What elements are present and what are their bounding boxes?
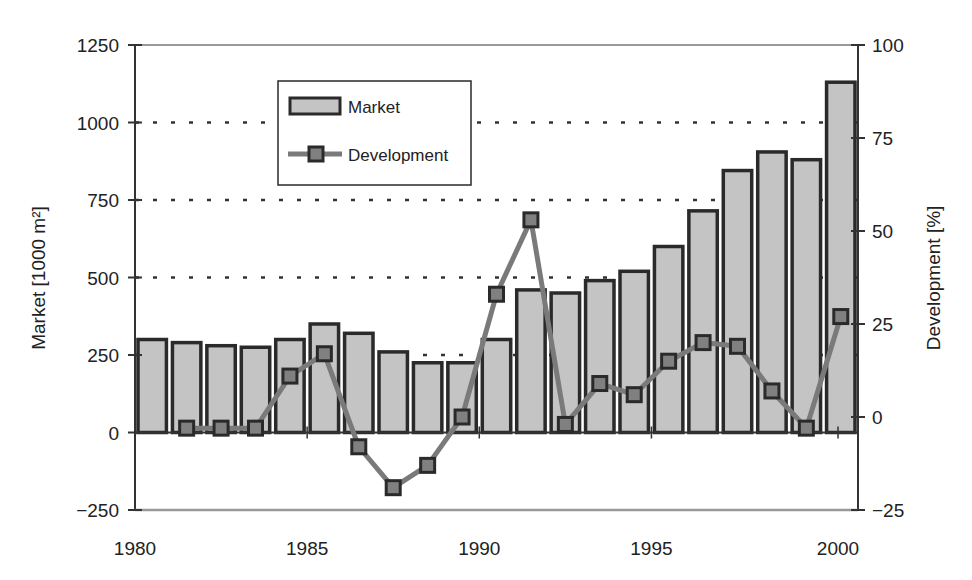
development-marker	[696, 336, 710, 350]
legend-market-label: Market	[348, 98, 400, 117]
x-tick-label: 1980	[114, 538, 156, 559]
market-bars	[138, 82, 855, 432]
bar-1997	[723, 171, 751, 433]
development-marker	[558, 417, 572, 431]
development-marker	[455, 410, 469, 424]
development-marker	[490, 287, 504, 301]
y-tick-label-left: 500	[87, 268, 119, 289]
bar-2000	[827, 82, 855, 432]
bar-1996	[689, 211, 717, 433]
y-tick-label-right: 50	[872, 221, 893, 242]
bar-1993	[586, 281, 614, 433]
y-tick-label-right: 0	[872, 407, 883, 428]
development-marker	[386, 481, 400, 495]
bar-1988	[413, 363, 441, 433]
y-tick-label-left: 0	[108, 423, 119, 444]
x-tick-label: 2000	[817, 538, 859, 559]
legend: Market Development	[278, 81, 471, 185]
combo-chart: −250025050075010001250−25025507510019801…	[0, 0, 972, 580]
y-tick-label-right: −25	[872, 500, 904, 521]
development-marker	[627, 388, 641, 402]
bar-1980	[138, 340, 166, 433]
development-marker	[765, 384, 779, 398]
development-marker	[421, 458, 435, 472]
y-tick-label-right: 100	[872, 35, 904, 56]
chart-container: −250025050075010001250−25025507510019801…	[0, 0, 972, 580]
bar-1991	[517, 290, 545, 433]
y-tick-label-left: 1000	[77, 113, 119, 134]
development-marker	[731, 339, 745, 353]
bar-1984	[276, 340, 304, 433]
development-marker	[799, 421, 813, 435]
bar-1995	[654, 247, 682, 433]
legend-development-label: Development	[348, 146, 448, 165]
y-axis-title-right: Development [%]	[923, 206, 944, 351]
legend-market-swatch	[290, 98, 340, 114]
development-marker	[662, 354, 676, 368]
bar-1987	[379, 352, 407, 433]
bar-1990	[482, 340, 510, 433]
y-tick-label-left: 1250	[77, 35, 119, 56]
development-marker	[317, 347, 331, 361]
bar-1981	[172, 343, 200, 433]
y-tick-label-right: 25	[872, 314, 893, 335]
x-tick-label: 1985	[286, 538, 328, 559]
development-marker	[352, 440, 366, 454]
development-marker	[180, 421, 194, 435]
development-marker	[214, 421, 228, 435]
y-tick-label-right: 75	[872, 128, 893, 149]
bar-1982	[207, 346, 235, 433]
bar-1994	[620, 271, 648, 432]
development-marker	[593, 377, 607, 391]
y-tick-label-left: 750	[87, 190, 119, 211]
legend-development-marker-icon	[309, 147, 323, 161]
development-marker	[524, 213, 538, 227]
development-marker	[834, 310, 848, 324]
y-tick-label-left: 250	[87, 345, 119, 366]
y-tick-label-left: −250	[76, 500, 119, 521]
x-tick-label: 1995	[630, 538, 672, 559]
development-marker	[283, 369, 297, 383]
x-tick-label: 1990	[458, 538, 500, 559]
y-axis-title-left: Market [1000 m²]	[28, 206, 49, 350]
development-marker	[249, 421, 263, 435]
